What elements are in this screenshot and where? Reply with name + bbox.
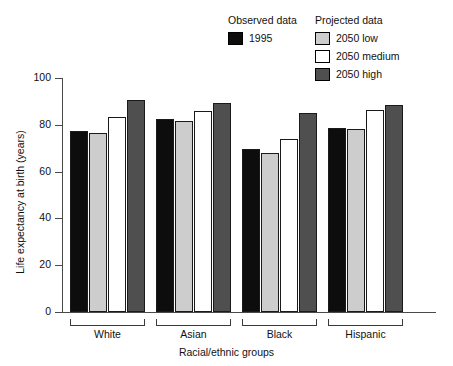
group-label-asian: Asian: [156, 328, 231, 340]
y-axis-tick: [55, 125, 62, 126]
x-axis-line: [62, 312, 436, 313]
y-axis-line: [62, 78, 63, 313]
group-bracket: [70, 319, 145, 326]
bar-asian-2050-medium: [194, 111, 212, 312]
bar-black-1995: [242, 149, 260, 312]
group-label-black: Black: [242, 328, 317, 340]
bar-white-1995: [70, 131, 88, 312]
y-axis-tick: [55, 172, 62, 173]
bar-asian-2050-high: [213, 103, 231, 312]
bar-hispanic-2050-high: [385, 105, 403, 312]
bar-hispanic-1995: [328, 128, 346, 312]
bar-black-2050-medium: [280, 139, 298, 312]
group-bracket: [242, 319, 317, 326]
group-bracket: [328, 319, 403, 326]
bar-white-2050-high: [127, 100, 145, 312]
group-label-white: White: [70, 328, 145, 340]
y-axis-tick: [55, 218, 62, 219]
y-axis-title: Life expectancy at birth (years): [14, 112, 26, 292]
bar-asian-1995: [156, 119, 174, 312]
y-axis-tick-label: 0: [11, 305, 51, 317]
y-axis-tick: [55, 265, 62, 266]
y-axis-tick: [55, 78, 62, 79]
y-axis-tick-label: 100: [11, 71, 51, 83]
bar-black-2050-low: [261, 153, 279, 312]
bar-white-2050-medium: [108, 117, 126, 312]
plot-area: 020406080100 Life expectancy at birth (y…: [0, 0, 453, 366]
bar-hispanic-2050-low: [347, 129, 365, 312]
group-bracket: [156, 319, 231, 326]
bar-white-2050-low: [89, 133, 107, 312]
bar-asian-2050-low: [175, 121, 193, 312]
group-label-hispanic: Hispanic: [328, 328, 403, 340]
y-axis-tick: [55, 312, 62, 313]
bar-black-2050-high: [299, 113, 317, 312]
x-axis-title: Racial/ethnic groups: [0, 346, 453, 358]
bar-hispanic-2050-medium: [366, 110, 384, 312]
chart-page: Observed data 1995 Projected data 2050 l…: [0, 0, 453, 366]
